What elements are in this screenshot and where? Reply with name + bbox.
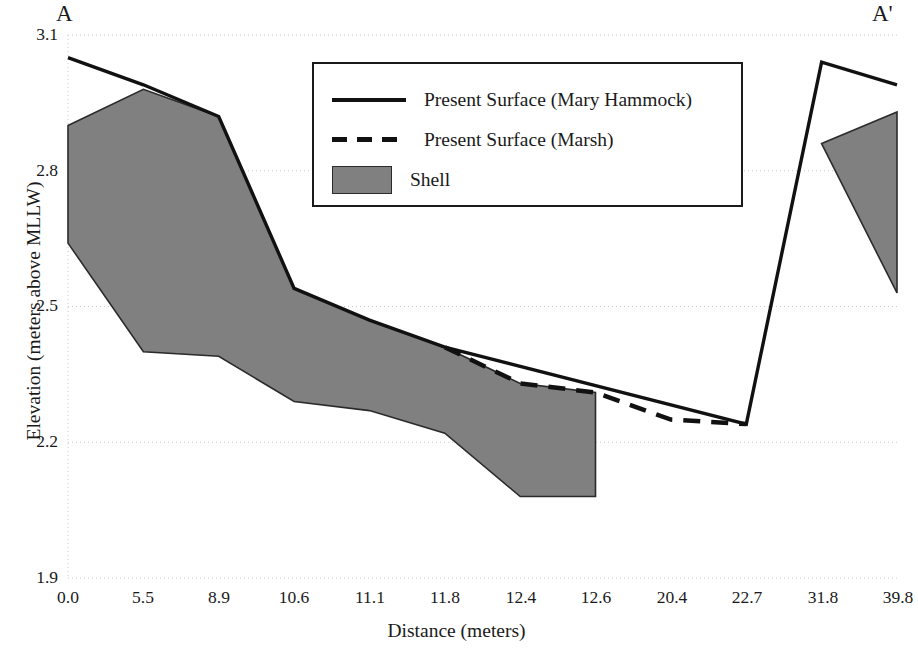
- legend: Present Surface (Mary Hammock) Present S…: [312, 62, 743, 207]
- solid-line-icon: [332, 89, 406, 111]
- legend-item-marsh: Present Surface (Marsh): [314, 120, 741, 160]
- legend-label: Present Surface (Marsh): [424, 129, 614, 151]
- legend-label: Shell: [410, 169, 450, 191]
- shell-area: [822, 112, 897, 293]
- filled-swatch-icon: [332, 166, 392, 194]
- dashed-line-icon: [332, 129, 406, 151]
- legend-label: Present Surface (Mary Hammock): [424, 89, 692, 111]
- legend-item-shell: Shell: [314, 160, 741, 200]
- legend-item-mary-hammock: Present Surface (Mary Hammock): [314, 80, 741, 120]
